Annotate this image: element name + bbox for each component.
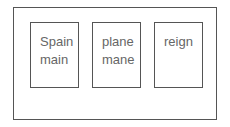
- card-word: Spain: [40, 33, 78, 51]
- word-card-3: reign: [154, 22, 203, 88]
- card-word: plane: [102, 33, 140, 51]
- card-word: mane: [102, 51, 140, 69]
- card-word: reign: [164, 33, 202, 51]
- word-card-1: Spain main: [30, 22, 79, 88]
- card-word: main: [40, 51, 78, 69]
- word-card-2: plane mane: [92, 22, 141, 88]
